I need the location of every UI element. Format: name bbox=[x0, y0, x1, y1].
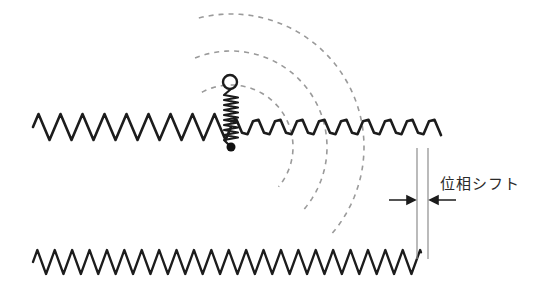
figure-background bbox=[0, 0, 547, 297]
phase-shift-label: 位相シフト bbox=[440, 175, 520, 193]
phase-shift-figure: 位相シフト bbox=[0, 0, 547, 297]
figure-canvas: 位相シフト bbox=[0, 0, 547, 297]
oscillator-anchor-dot-icon bbox=[227, 143, 236, 152]
